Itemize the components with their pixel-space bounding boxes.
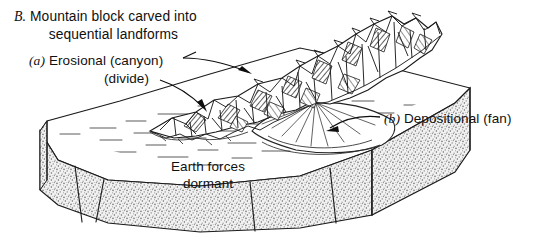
label-depositional-fan-text: Depositional (fan) — [400, 111, 511, 126]
label-depositional-fan: (b) Depositional (fan) — [384, 110, 512, 127]
figure-title: B. Mountain block carved into sequential… — [14, 8, 197, 43]
marker-a: (a) — [29, 53, 45, 68]
block-left-face — [40, 121, 47, 190]
label-divide: (divide) — [104, 70, 149, 87]
dormant-line-1: Earth forces — [171, 159, 245, 174]
title-line-2: sequential landforms — [14, 26, 197, 44]
marker-b: (b) — [384, 111, 400, 126]
panel-letter: B. — [14, 9, 26, 24]
label-earth-forces-dormant: Earth forces dormant — [149, 158, 267, 193]
dormant-line-2: dormant — [149, 175, 267, 192]
label-erosional-canyon: (a) Erosional (canyon) — [29, 52, 163, 69]
title-line-1: Mountain block carved into — [30, 9, 197, 24]
label-erosional-canyon-text: Erosional (canyon) — [45, 53, 163, 68]
